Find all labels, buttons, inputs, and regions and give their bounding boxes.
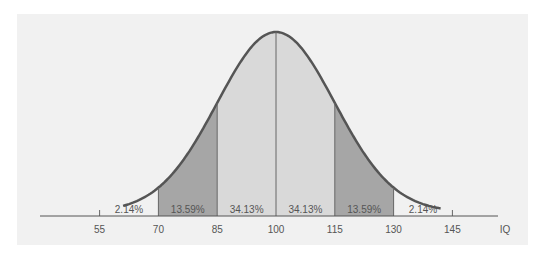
x-axis-label: IQ [500, 224, 511, 235]
x-tick-label: 85 [212, 224, 224, 235]
band-percent-label: 13.59% [347, 204, 381, 215]
x-tick-label: 70 [153, 224, 165, 235]
band-100-115 [276, 32, 335, 216]
x-tick-label: 130 [385, 224, 402, 235]
band-percent-label: 2.14% [409, 204, 437, 215]
normal-distribution-chart: 557085100115130145 2.14%13.59%34.13%34.1… [0, 0, 543, 253]
x-tick-label: 145 [444, 224, 461, 235]
x-ticks: 557085100115130145 [94, 224, 461, 235]
band-85-100 [217, 32, 276, 216]
band-percent-label: 13.59% [171, 204, 205, 215]
x-tick-label: 100 [268, 224, 285, 235]
band-percent-label: 34.13% [230, 204, 264, 215]
x-tick-label: 55 [94, 224, 106, 235]
x-tick-label: 115 [327, 224, 343, 235]
band-percent-label: 34.13% [288, 204, 322, 215]
band-dividers [100, 32, 453, 216]
band-percent-label: 2.14% [115, 204, 143, 215]
